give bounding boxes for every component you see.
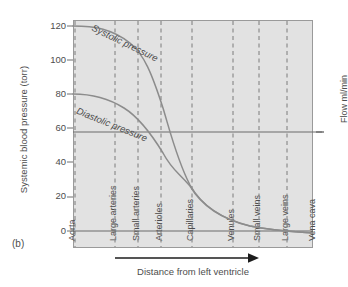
x-axis-title: Distance from left ventricle — [73, 266, 313, 277]
systolic-pressure-curve — [73, 26, 313, 233]
panel-label: (b) — [12, 238, 24, 249]
diastolic-pressure-curve — [73, 94, 313, 233]
flow-axis-label: Flow ml/min — [339, 61, 348, 137]
x-axis-arrow — [115, 253, 259, 263]
chart-vector-layer — [0, 0, 348, 287]
y-axis-ticks — [67, 26, 73, 231]
segment-divider-lines — [75, 21, 287, 247]
figure-panel-b: Systemic blood pressure (torr) 120 100 8… — [0, 0, 348, 287]
